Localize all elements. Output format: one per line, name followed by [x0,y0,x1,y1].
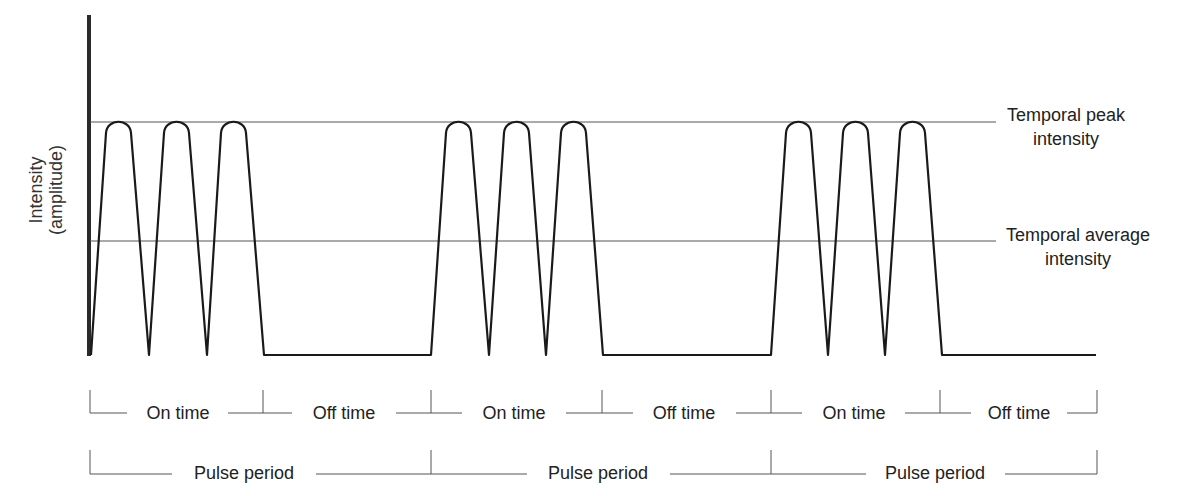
off-time-label-3: Off time [988,403,1051,423]
temporal-average-label-line2: intensity [1045,249,1111,269]
temporal-peak-label-line2: intensity [1033,129,1099,149]
y-axis-label: Intensity (amplitude) [26,145,66,235]
on-time-label-2: On time [482,403,545,423]
temporal-average-label-line1: Temporal average [1006,225,1150,245]
y-axis-label-line2: (amplitude) [46,145,66,235]
temporal-peak-label: Temporal peak intensity [1007,105,1126,149]
temporal-average-label: Temporal average intensity [1006,225,1150,269]
on-time-label-1: On time [146,403,209,423]
temporal-peak-label-line1: Temporal peak [1007,105,1126,125]
on-time-label-3: On time [822,403,885,423]
pulse-period-label-1: Pulse period [194,463,294,483]
y-axis-label-line1: Intensity [26,156,46,223]
pulse-period-label-2: Pulse period [548,463,648,483]
pulsed-intensity-diagram: Intensity (amplitude) Temporal peak inte… [0,0,1193,496]
timing-bracket-row [90,390,1097,413]
pulse-period-label-3: Pulse period [885,463,985,483]
off-time-label-1: Off time [313,403,376,423]
pulse-waveform [91,122,1096,355]
off-time-label-2: Off time [653,403,716,423]
